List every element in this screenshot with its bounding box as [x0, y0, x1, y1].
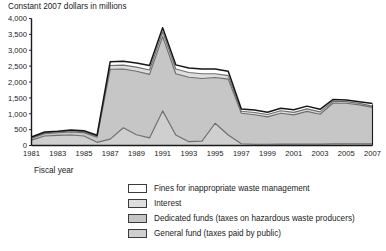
y-axis-tick-label: 500: [14, 125, 27, 134]
x-axis-tick-label: 1987: [102, 149, 119, 158]
y-axis-tick-label: 2,000: [8, 78, 27, 87]
area-series-group: [32, 28, 373, 146]
legend-item: Fines for inappropriate waste management: [128, 181, 384, 196]
legend-label-dedicated-funds: Dedicated funds (taxes on hazardous wast…: [154, 214, 355, 223]
x-axis-title: Fiscal year: [34, 166, 74, 175]
x-axis-tick-label: 2007: [364, 149, 381, 158]
legend-swatch-dedicated-funds: [128, 214, 147, 223]
y-axis-tick-label: 2,500: [8, 62, 27, 71]
legend-item: General fund (taxes paid by public): [128, 226, 384, 241]
x-axis-tick-label: 1997: [233, 149, 250, 158]
x-axis-tick-label: 2003: [312, 149, 329, 158]
y-axis-tick-label: 3,500: [8, 30, 27, 39]
legend-swatch-interest: [128, 199, 147, 208]
plot-area: 05001,0001,5002,0002,5003,0003,5004,000 …: [0, 14, 386, 162]
y-axis-tick-label: 1,000: [8, 110, 27, 119]
area-band: [32, 37, 373, 145]
x-axis-tick-label: 2005: [338, 149, 355, 158]
chart-title: Constant 2007 dollars in millions: [8, 2, 127, 11]
legend-label-fines: Fines for inappropriate waste management: [154, 184, 310, 193]
x-axis-tick-label: 1993: [180, 149, 197, 158]
legend-item: Dedicated funds (taxes on hazardous wast…: [128, 211, 384, 226]
x-axis-ticks-group: 1981198319851987198919911993199519971999…: [23, 149, 381, 158]
legend-swatch-fines: [128, 184, 147, 193]
x-axis-tick-label: 1981: [23, 149, 40, 158]
x-axis-tick-label: 1983: [49, 149, 66, 158]
y-axis-tick-label: 3,000: [8, 46, 27, 55]
x-axis-tick-label: 1995: [207, 149, 224, 158]
x-axis-tick-label: 1985: [76, 149, 93, 158]
legend-swatch-general-fund: [128, 229, 147, 238]
legend-label-interest: Interest: [154, 199, 181, 208]
stacked-area-chart-svg: 05001,0001,5002,0002,5003,0003,5004,000 …: [0, 14, 386, 162]
y-axis-ticks-group: 05001,0001,5002,0002,5003,0003,5004,000: [8, 14, 32, 150]
x-axis-tick-label: 1989: [128, 149, 145, 158]
y-axis-tick-label: 1,500: [8, 94, 27, 103]
chart-legend: Fines for inappropriate waste management…: [128, 181, 384, 241]
x-axis-tick-label: 1999: [259, 149, 276, 158]
x-axis-tick-label: 2001: [285, 149, 302, 158]
legend-item: Interest: [128, 196, 384, 211]
legend-label-general-fund: General fund (taxes paid by public): [154, 229, 281, 238]
x-axis-tick-label: 1991: [154, 149, 171, 158]
chart-figure: Constant 2007 dollars in millions 05001,…: [0, 0, 386, 251]
y-axis-tick-label: 4,000: [8, 14, 27, 23]
